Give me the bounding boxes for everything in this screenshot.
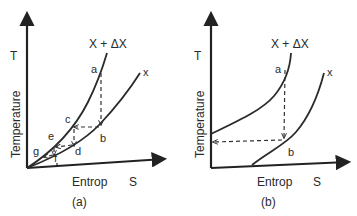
curve-label-x: x xyxy=(327,66,333,78)
panel-caption-b: (b) xyxy=(261,195,276,209)
point-c: c xyxy=(65,113,71,125)
ts-diagram-figure: T Temperature Entrop S X + ΔX x a b c d … xyxy=(0,0,357,216)
curve-label-x-plus-delta-x: X + ΔX xyxy=(271,37,309,51)
y-axis-label: Temperature xyxy=(9,90,23,158)
panel-a: T Temperature Entrop S X + ΔX x a b c d … xyxy=(9,14,164,209)
panel-b: T Temperature Entrop S X + ΔX x a b (b) xyxy=(193,14,348,209)
point-b: b xyxy=(288,146,294,158)
curve-x xyxy=(27,73,140,168)
x-axis xyxy=(211,162,348,168)
dashed-path-b-to-axis xyxy=(213,140,282,142)
x-axis-symbol: S xyxy=(129,175,137,189)
point-e: e xyxy=(48,130,54,142)
x-axis-label: Entrop xyxy=(257,175,293,189)
x-axis xyxy=(27,159,164,168)
curve-label-x: x xyxy=(143,66,149,78)
y-axis-label: Temperature xyxy=(193,90,207,158)
point-d: d xyxy=(75,145,81,157)
y-axis-symbol: T xyxy=(194,49,202,63)
panel-caption-a: (a) xyxy=(72,195,87,209)
point-b: b xyxy=(100,132,106,144)
x-axis-label: Entrop xyxy=(72,175,108,189)
point-a: a xyxy=(275,63,282,75)
y-axis-symbol: T xyxy=(10,49,18,63)
point-a: a xyxy=(91,63,98,75)
x-axis-symbol: S xyxy=(313,175,321,189)
point-g: g xyxy=(33,145,39,157)
curve-label-x-plus-delta-x: X + ΔX xyxy=(89,37,127,51)
